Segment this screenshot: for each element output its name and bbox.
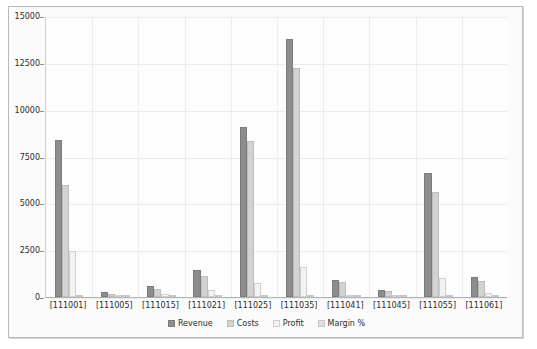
bar[interactable] (240, 127, 247, 297)
bar[interactable] (208, 290, 215, 297)
bar[interactable] (307, 295, 314, 297)
bar[interactable] (346, 295, 353, 297)
bar[interactable] (76, 295, 83, 297)
x-tick-label: [111035] (276, 301, 322, 311)
legend-label: Margin % (328, 319, 365, 328)
legend-swatch-icon (318, 320, 325, 327)
bar[interactable] (471, 277, 478, 297)
x-tick-label: [111001] (45, 301, 91, 311)
bar[interactable] (339, 282, 346, 297)
legend-item[interactable]: Costs (227, 319, 259, 328)
bar[interactable] (392, 295, 399, 297)
chart-legend: RevenueCostsProfitMargin % (9, 319, 524, 328)
y-tick-label: 12500 (15, 60, 40, 68)
gridline-horizontal (46, 298, 507, 299)
bar[interactable] (424, 173, 431, 297)
y-axis-labels: 0250050007500100001250015000 (9, 17, 40, 298)
bar[interactable] (247, 141, 254, 297)
bar-group (378, 17, 407, 297)
bar[interactable] (215, 295, 222, 297)
y-tick-mark (40, 17, 44, 18)
bar[interactable] (378, 290, 385, 297)
y-tick-mark (40, 204, 44, 205)
bar[interactable] (385, 291, 392, 297)
bar[interactable] (62, 185, 69, 297)
bar[interactable] (446, 295, 453, 297)
bar[interactable] (293, 68, 300, 297)
y-tick-mark (40, 158, 44, 159)
bar[interactable] (169, 295, 176, 297)
bar[interactable] (286, 39, 293, 297)
bar[interactable] (400, 295, 407, 297)
bar[interactable] (161, 294, 168, 297)
x-tick-label: [111041] (322, 301, 368, 311)
y-tick-label: 10000 (15, 107, 40, 115)
bar[interactable] (108, 294, 115, 297)
bar[interactable] (55, 140, 62, 297)
bar[interactable] (154, 289, 161, 297)
bar[interactable] (101, 292, 108, 297)
x-tick-label: [111061] (461, 301, 507, 311)
bar-group (101, 17, 130, 297)
bar-group (193, 17, 222, 297)
bar-group (55, 17, 84, 297)
bar-group (424, 17, 453, 297)
legend-swatch-icon (168, 320, 175, 327)
bar-group (147, 17, 176, 297)
bar[interactable] (432, 192, 439, 297)
bar[interactable] (147, 286, 154, 297)
bar[interactable] (122, 295, 129, 297)
legend-item[interactable]: Revenue (168, 319, 213, 328)
y-tick-mark (40, 251, 44, 252)
x-tick-label: [111055] (415, 301, 461, 311)
bar[interactable] (353, 295, 360, 297)
bar[interactable] (115, 295, 122, 297)
x-tick-label: [111005] (91, 301, 137, 311)
bar[interactable] (485, 293, 492, 297)
legend-item[interactable]: Margin % (318, 319, 365, 328)
legend-swatch-icon (227, 320, 234, 327)
x-tick-label: [111025] (230, 301, 276, 311)
y-tick-label: 2500 (20, 247, 40, 255)
y-tick-mark (40, 298, 44, 299)
bar[interactable] (69, 251, 76, 297)
bar[interactable] (201, 276, 208, 297)
y-tick-mark (40, 111, 44, 112)
bar-group (332, 17, 361, 297)
legend-label: Costs (237, 319, 259, 328)
x-tick-label: [111045] (368, 301, 414, 311)
y-tick-label: 15000 (15, 13, 40, 21)
bar-group (240, 17, 269, 297)
legend-label: Revenue (178, 319, 213, 328)
bar[interactable] (332, 280, 339, 297)
y-tick-mark (40, 64, 44, 65)
y-tick-label: 7500 (20, 154, 40, 162)
legend-item[interactable]: Profit (273, 319, 304, 328)
bar[interactable] (439, 278, 446, 297)
bar[interactable] (254, 283, 261, 297)
bars-layer (46, 17, 507, 297)
bar-group (286, 17, 315, 297)
bar[interactable] (193, 270, 200, 297)
x-tick-label: [111021] (184, 301, 230, 311)
y-tick-label: 5000 (20, 200, 40, 208)
x-axis-labels: [111001][111005][111015][111021][111025]… (45, 301, 507, 315)
bar[interactable] (478, 281, 485, 297)
bar-group (471, 17, 500, 297)
bar[interactable] (261, 295, 268, 297)
plot-area (45, 17, 507, 298)
bar[interactable] (300, 267, 307, 297)
x-tick-label: [111015] (137, 301, 183, 311)
bar[interactable] (492, 295, 499, 297)
legend-swatch-icon (273, 320, 280, 327)
legend-label: Profit (283, 319, 304, 328)
chart-panel: 0250050007500100001250015000 [111001][11… (8, 6, 523, 338)
